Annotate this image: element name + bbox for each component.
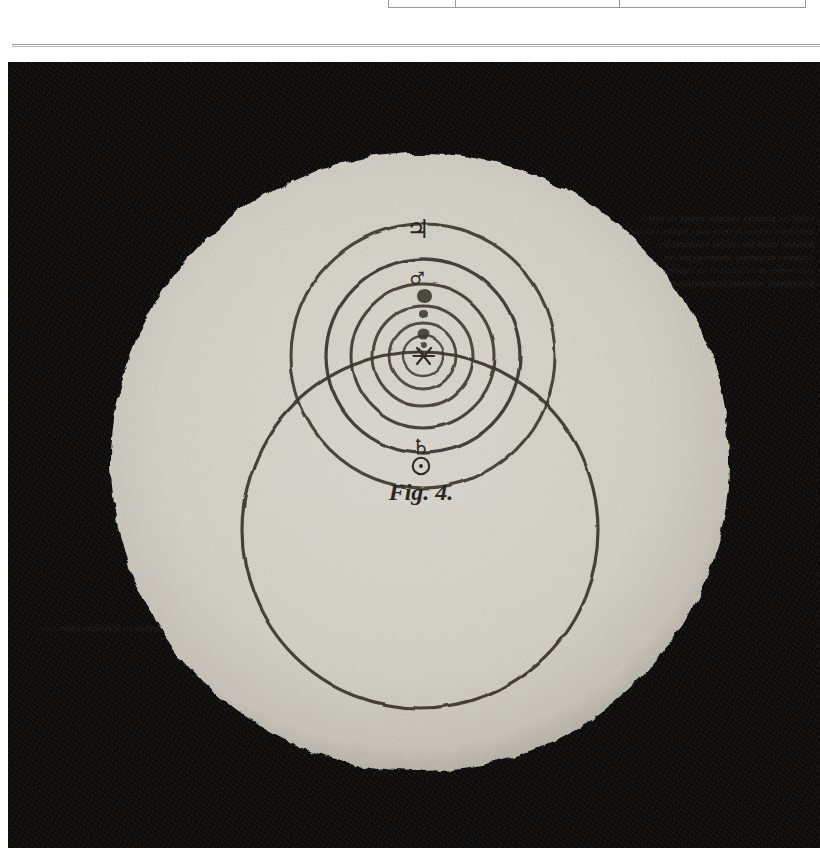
- horizontal-rule: [12, 44, 820, 47]
- page-root: soleil les planetes tournent autour du s…: [0, 0, 820, 848]
- plate-image: soleil les planetes tournent autour du s…: [8, 62, 820, 848]
- saturn-symbol: ♄: [412, 435, 431, 459]
- figure-caption: Fig. 4.: [388, 479, 454, 505]
- table-fragment: [388, 0, 806, 8]
- planet-dot-large: [417, 289, 431, 303]
- jupiter-symbol: ♃: [406, 214, 429, 244]
- table-cell-2: [456, 0, 620, 7]
- planet-dot-small: [419, 310, 427, 318]
- table-cell-1: [389, 0, 456, 7]
- planet-dot-tiny: [420, 342, 426, 348]
- mars-symbol: ♂: [409, 268, 424, 288]
- planet-dot-medium: [418, 329, 429, 340]
- orbit-diagram: ♃ ♂ ♄ Fig. 4.: [8, 62, 820, 848]
- table-cell-3: [620, 0, 805, 7]
